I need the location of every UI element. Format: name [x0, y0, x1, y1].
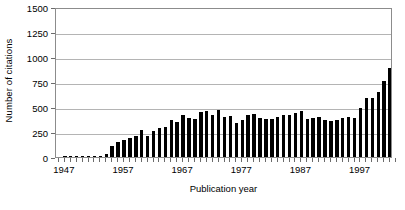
bar: [264, 119, 267, 158]
x-axis-tick-mark: [389, 158, 390, 162]
x-axis-tick-mark: [377, 158, 378, 162]
x-axis-tick-mark: [99, 158, 100, 162]
x-axis-tick-mark: [141, 158, 142, 162]
x-axis-tick-mark: [224, 158, 225, 162]
x-axis-tick-mark: [283, 158, 284, 162]
bar: [317, 117, 320, 157]
bar: [205, 111, 208, 157]
bar: [223, 117, 226, 158]
x-axis-tick-mark: [200, 158, 201, 162]
x-axis-tick-mark: [88, 158, 89, 162]
x-axis-tick-mark: [93, 158, 94, 162]
y-axis-tick-label: 1500: [27, 3, 48, 14]
x-axis-tick-mark: [123, 158, 124, 162]
bar: [306, 119, 309, 158]
x-axis-tick-mark: [289, 158, 290, 162]
plot-area: [55, 8, 392, 158]
bar: [276, 117, 279, 157]
x-axis-tick-mark: [158, 158, 159, 162]
x-axis-tick-mark: [212, 158, 213, 162]
bar: [181, 115, 184, 158]
bar-series: [56, 9, 391, 157]
citations-bar-chart: Number of citations 02505007501000125015…: [0, 0, 405, 210]
x-axis-tick-mark: [354, 158, 355, 162]
x-axis-tick-mark: [170, 158, 171, 162]
bar: [69, 156, 72, 157]
bar: [365, 98, 368, 158]
bar: [235, 123, 238, 158]
bar: [353, 118, 356, 157]
x-axis-tick-mark: [58, 158, 59, 162]
x-axis-tick-mark: [342, 158, 343, 162]
x-axis-tick-label: 1967: [172, 164, 193, 175]
x-axis-tick-label: 1987: [290, 164, 311, 175]
x-axis-tick-mark: [153, 158, 154, 162]
x-axis-tick-mark: [182, 158, 183, 162]
x-axis-tick-mark: [253, 158, 254, 162]
x-axis-tick-mark: [111, 158, 112, 162]
bar: [158, 128, 161, 157]
bar: [270, 119, 273, 158]
x-axis-tick-mark: [300, 158, 301, 162]
bar: [311, 118, 314, 157]
x-axis-tick-mark: [306, 158, 307, 162]
bar: [152, 131, 155, 157]
bar: [93, 156, 96, 157]
y-axis-tick-label: 750: [32, 78, 48, 89]
x-axis-tick-mark: [206, 158, 207, 162]
x-axis-tick-mark: [330, 158, 331, 162]
bar: [170, 120, 173, 158]
x-axis-tick-mark: [76, 158, 77, 162]
x-axis-tick-label: 1947: [53, 164, 74, 175]
y-axis-tick-labels: 0250500750100012501500: [14, 8, 48, 158]
bar: [329, 121, 332, 158]
x-axis-tick-mark: [383, 158, 384, 162]
x-axis-tick-mark: [265, 158, 266, 162]
x-axis-tick-mark: [176, 158, 177, 162]
x-axis-tick-mark: [324, 158, 325, 162]
x-axis-tick-label: 1997: [349, 164, 370, 175]
x-axis-tick-mark: [318, 158, 319, 162]
x-axis-tick-mark: [164, 158, 165, 162]
bar: [241, 120, 244, 157]
bar: [252, 114, 255, 157]
bar: [359, 108, 362, 157]
x-axis-tick-labels: 194719571967197719871997: [55, 164, 392, 178]
x-axis-tick-label: 1977: [231, 164, 252, 175]
x-axis-tick-mark: [82, 158, 83, 162]
bar: [87, 156, 90, 157]
x-axis-tick-mark: [64, 158, 65, 162]
bar: [63, 156, 66, 157]
bar: [187, 118, 190, 158]
x-axis-tick-mark: [70, 158, 71, 162]
bar: [193, 119, 196, 158]
y-axis-tick-label: 0: [43, 153, 48, 164]
bar: [341, 118, 344, 158]
x-axis-tick-mark: [229, 158, 230, 162]
bar: [288, 115, 291, 158]
x-axis-tick-mark: [359, 158, 360, 162]
bar: [164, 127, 167, 157]
x-axis-tick-mark: [277, 158, 278, 162]
bar: [282, 115, 285, 158]
bar: [140, 130, 143, 157]
bar: [110, 146, 113, 158]
bar: [371, 98, 374, 158]
bar: [175, 122, 178, 158]
x-axis-tick-mark: [235, 158, 236, 162]
x-axis-tick-mark: [188, 158, 189, 162]
bar: [146, 136, 149, 158]
x-axis-tick-mark: [312, 158, 313, 162]
x-axis-tick-mark: [348, 158, 349, 162]
bar: [122, 140, 125, 157]
bar: [323, 120, 326, 158]
bar: [75, 156, 78, 157]
x-axis-tick-marks: [55, 158, 392, 162]
bar: [382, 81, 385, 158]
x-axis-tick-mark: [218, 158, 219, 162]
bar: [217, 110, 220, 157]
x-axis-tick-mark: [105, 158, 106, 162]
x-axis-tick-mark: [294, 158, 295, 162]
bar: [211, 115, 214, 158]
bar: [300, 111, 303, 157]
